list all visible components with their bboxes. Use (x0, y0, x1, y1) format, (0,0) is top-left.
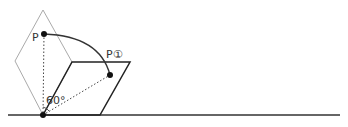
rotation-diagram: P P① 60° (0, 0, 348, 127)
point-p1 (107, 72, 113, 78)
dotted-line-op (43, 34, 44, 115)
label-p: P (32, 31, 39, 44)
rotation-arc (44, 34, 110, 75)
label-angle: 60° (46, 94, 66, 107)
label-p1: P① (106, 48, 123, 61)
point-p (41, 31, 47, 37)
point-origin (40, 112, 46, 118)
